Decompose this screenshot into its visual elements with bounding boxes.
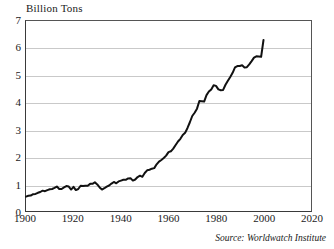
x-axis-tick-labels: 1900192019401960198020002020 bbox=[0, 213, 334, 233]
y-tick-label: 3 bbox=[16, 124, 22, 135]
x-tick-label: 1960 bbox=[158, 213, 180, 224]
y-tick-label: 7 bbox=[16, 15, 22, 26]
y-tick-label: 1 bbox=[16, 179, 22, 190]
y-axis-title: Billion Tons bbox=[26, 2, 83, 14]
x-tick-label: 1980 bbox=[205, 213, 227, 224]
y-tick-label: 5 bbox=[16, 69, 22, 80]
y-tick-label: 6 bbox=[16, 42, 22, 53]
x-tick-label: 1940 bbox=[110, 213, 132, 224]
data-series-line bbox=[26, 21, 311, 211]
y-tick-label: 4 bbox=[16, 97, 22, 108]
x-tick-label: 2020 bbox=[301, 213, 323, 224]
plot-area bbox=[25, 20, 312, 212]
source-annotation: Source: Worldwatch Institute bbox=[215, 233, 326, 243]
x-tick-label: 2000 bbox=[253, 213, 275, 224]
series-path bbox=[26, 40, 264, 197]
x-tick-label: 1920 bbox=[62, 213, 84, 224]
y-tick-label: 2 bbox=[16, 152, 22, 163]
chart-container: Billion Tons 01234567 190019201940196019… bbox=[0, 0, 334, 249]
x-tick-label: 1900 bbox=[14, 213, 36, 224]
